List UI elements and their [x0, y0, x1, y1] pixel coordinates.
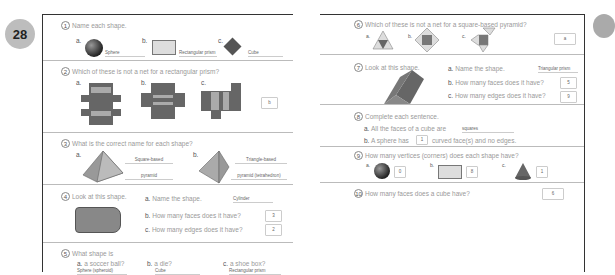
triangular-prism-image: [382, 69, 426, 105]
question-7: 7Look at this shape. a. Name the shape. …: [320, 55, 584, 105]
q9c-answer-box[interactable]: 1: [536, 166, 548, 178]
pyramid-net-a-image: [372, 30, 394, 50]
q2-answer-box[interactable]: b: [261, 97, 278, 109]
pyramid-net-c-image: [470, 25, 496, 53]
rectangular-prism-image: [152, 40, 176, 55]
cube-image: [223, 37, 241, 55]
q6-answer-box[interactable]: a: [554, 33, 576, 45]
question-2: 2Which of these is not a net for a recta…: [43, 61, 293, 133]
right-worksheet: 6Which of these is not a net for a squar…: [320, 14, 585, 272]
q4c-answer-box[interactable]: 2: [265, 224, 282, 236]
rectangular-prism-image: [438, 165, 462, 179]
net-a-image: [81, 83, 121, 125]
page-number-badge: 28: [5, 19, 35, 49]
net-b-image: [141, 83, 185, 119]
question-10: 10How many faces does a cube have? 6: [320, 183, 584, 273]
question-8: 8Complete each sentence. a. All the face…: [320, 105, 584, 147]
triangular-pyramid-image: [197, 149, 231, 185]
left-worksheet: 1Name each shape. a. Sphere b. Rectangul…: [42, 14, 293, 272]
question-3: 3What is the correct name for each shape…: [43, 133, 293, 185]
pyramid-net-b-image: [414, 27, 440, 53]
net-c-image: [201, 83, 241, 119]
q9b-answer-box[interactable]: 8: [466, 166, 478, 178]
sphere-image: [85, 39, 103, 57]
square-pyramid-image: [81, 149, 125, 183]
q4b-answer-box[interactable]: 3: [265, 210, 282, 222]
next-page-badge: [593, 14, 615, 38]
question-1: 1Name each shape. a. Sphere b. Rectangul…: [43, 15, 293, 61]
sphere-image: [374, 163, 390, 179]
q7b-answer-box[interactable]: 5: [560, 77, 577, 89]
question-6: 6Which of these is not a net for a squar…: [320, 15, 584, 55]
question-5: 5What shape is a. a soccer ball? Sphere …: [43, 243, 293, 273]
q10-answer-box[interactable]: 6: [542, 188, 564, 200]
cylinder-image: [75, 207, 121, 233]
question-9: 9How many vertices (corners) does each s…: [320, 147, 584, 183]
q9a-answer-box[interactable]: 0: [394, 166, 406, 178]
q8b-answer-box[interactable]: 1: [416, 135, 428, 145]
q7c-answer-box[interactable]: 9: [560, 91, 577, 103]
question-4: 4Look at this shape. a. Name the shape. …: [43, 185, 293, 243]
cone-image: [514, 162, 532, 180]
